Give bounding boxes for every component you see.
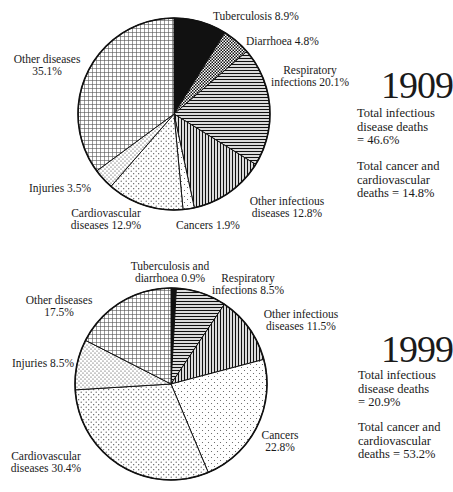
note-line: = 46.6% <box>357 134 435 148</box>
note-line: Total infectious <box>358 369 436 383</box>
label-respiratory-infections: Respiratory infections 8.5% <box>212 272 284 296</box>
label-line: infections 8.5% <box>212 284 284 296</box>
label-other-diseases: Other diseases 35.1% <box>12 53 82 77</box>
note-line: deaths = 14.8% <box>357 187 439 201</box>
total-cancer-cardio-1999: Total cancer and cardiovascular deaths =… <box>358 421 440 462</box>
label-line: 17.5% <box>24 306 94 318</box>
year-title-1999: 1999 <box>381 330 453 368</box>
label-line: Other infectious <box>248 195 326 207</box>
note-line: = 20.9% <box>358 396 436 410</box>
label-line: Tuberculosis and <box>125 260 215 272</box>
label-cardiovascular: Cardiovascular diseases 30.4% <box>8 450 84 474</box>
label-line: Cardiovascular <box>68 207 144 219</box>
label-respiratory-infections: Respiratory infections 20.1% <box>270 64 350 88</box>
pie-1909-slices <box>78 18 270 210</box>
label-line: diseases 12.8% <box>248 207 326 219</box>
year-title-1909: 1909 <box>381 66 453 104</box>
total-infectious-1909: Total infectious disease deaths = 46.6% <box>357 107 435 148</box>
note-line: Total cancer and <box>357 160 439 174</box>
label-injuries: Injuries 3.5% <box>29 182 91 194</box>
label-other-infectious: Other infectious diseases 11.5% <box>261 308 341 332</box>
note-line: Total cancer and <box>358 421 440 435</box>
note-line: deaths = 53.2% <box>358 448 440 462</box>
pie-chart-1999: Tuberculosis and diarrhoea 0.9% Respirat… <box>0 246 453 492</box>
label-line: Respiratory <box>270 64 350 76</box>
label-line: diseases 11.5% <box>261 320 341 332</box>
pie-chart-1909: Tuberculosis 8.9% Diarrhoea 4.8% Respira… <box>0 0 453 246</box>
note-line: Total infectious <box>357 107 435 121</box>
label-line: Other diseases <box>24 294 94 306</box>
label-line: diarrhoea 0.9% <box>125 272 215 284</box>
label-line: diseases 30.4% <box>8 462 84 474</box>
total-infectious-1999: Total infectious disease deaths = 20.9% <box>358 369 436 410</box>
note-line: disease deaths <box>358 383 436 397</box>
label-cardiovascular: Cardiovascular diseases 12.9% <box>68 207 144 231</box>
label-cancers: Cancers 1.9% <box>176 219 240 231</box>
note-line: cardiovascular <box>358 435 440 449</box>
label-cancers: Cancers 22.8% <box>258 429 302 453</box>
label-tb-diarrhoea: Tuberculosis and diarrhoea 0.9% <box>125 260 215 284</box>
label-other-infectious: Other infectious diseases 12.8% <box>248 195 326 219</box>
label-line: Respiratory <box>212 272 284 284</box>
label-other-diseases: Other diseases 17.5% <box>24 294 94 318</box>
label-line: diseases 12.9% <box>68 219 144 231</box>
label-line: infections 20.1% <box>270 76 350 88</box>
label-tuberculosis: Tuberculosis 8.9% <box>213 10 299 22</box>
label-diarrhoea: Diarrhoea 4.8% <box>246 35 319 47</box>
label-line: Other infectious <box>261 308 341 320</box>
label-line: Cardiovascular <box>8 450 84 462</box>
total-cancer-cardio-1909: Total cancer and cardiovascular deaths =… <box>357 160 439 201</box>
label-line: 35.1% <box>12 65 82 77</box>
note-line: disease deaths <box>357 121 435 135</box>
label-line: Other diseases <box>12 53 82 65</box>
label-line: 22.8% <box>258 441 302 453</box>
pie-1999-slices <box>75 288 267 480</box>
note-line: cardiovascular <box>357 174 439 188</box>
label-injuries: Injuries 8.5% <box>12 357 74 369</box>
label-line: Cancers <box>258 429 302 441</box>
